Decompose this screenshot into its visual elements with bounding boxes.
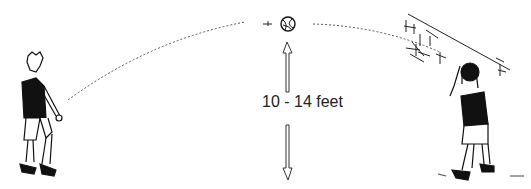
drill-illustration: 10 - 14 feet <box>0 0 531 189</box>
height-arrow-up <box>283 42 292 92</box>
ball-trajectory-right <box>313 24 440 52</box>
wall-lines <box>404 14 510 76</box>
height-arrow-down <box>283 125 292 180</box>
ball-trajectory-left <box>68 22 245 100</box>
volleyball-icon <box>263 17 295 31</box>
distance-label: 10 - 14 feet <box>262 93 343 111</box>
right-player-figure <box>438 63 524 180</box>
left-player-figure <box>20 52 62 176</box>
